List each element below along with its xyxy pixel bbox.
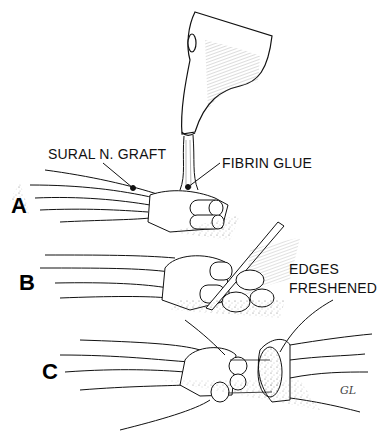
panel-a-nerves [10,170,240,240]
label-sural-graft: SURAL N. GRAFT [48,146,166,163]
artist-signature: GL [340,384,356,397]
panel-b-nerves [40,222,300,318]
label-fibrin-glue: FIBRIN GLUE [222,155,312,172]
panel-label-c: C [42,359,58,385]
panel-label-a: A [11,193,27,219]
panel-label-b: B [19,270,35,296]
leader-lines [103,163,333,352]
panel-c-nerves [60,320,372,430]
label-edges: EDGES [289,261,339,278]
label-freshened: FRESHENED [289,280,377,297]
